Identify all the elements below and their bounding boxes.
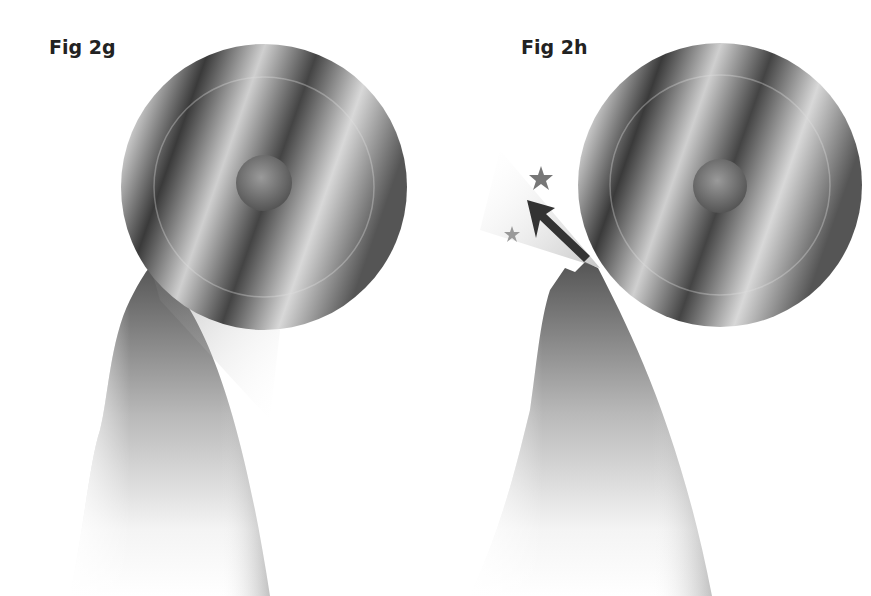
illustration-canvas — [0, 0, 871, 596]
wheel-hub-2g — [236, 155, 292, 211]
star-icon-large — [529, 166, 553, 190]
figure-2h — [470, 43, 862, 596]
wheel-hub-2h — [693, 159, 747, 213]
figure-2g — [70, 44, 407, 596]
